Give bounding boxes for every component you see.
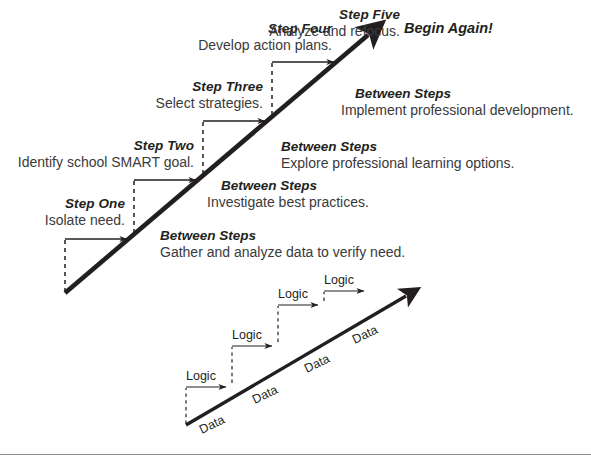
step-four-desc: Develop action plans. <box>100 37 332 53</box>
mini-logic-label-1: Logic <box>186 369 216 383</box>
between-steps-4-desc: Implement professional development. <box>341 102 574 118</box>
mini-diagonal-arrow <box>186 296 406 425</box>
step-two-desc: Identify school SMART goal. <box>0 154 194 170</box>
step-label-five: Step Five Analyze and refocus. <box>160 7 400 39</box>
between-steps-label-2: Between Steps Investigate best practices… <box>207 178 369 210</box>
between-steps-label-3: Between Steps Explore professional learn… <box>281 139 514 171</box>
step-three-desc: Select strategies. <box>40 95 263 111</box>
mini-logic-label-4: Logic <box>324 273 354 287</box>
between-steps-1-title: Between Steps <box>160 228 405 244</box>
step-label-one: Step One Isolate need. <box>0 196 125 228</box>
step-one-title: Step One <box>0 196 125 212</box>
step-label-three: Step Three Select strategies. <box>40 79 263 111</box>
step-three-title: Step Three <box>40 79 263 95</box>
step-two-title: Step Two <box>0 138 194 154</box>
step-one-desc: Isolate need. <box>0 212 125 228</box>
mini-step-connector-4 <box>324 291 364 301</box>
step-five-title: Step Five <box>160 7 400 23</box>
between-steps-label-4: Between Steps Implement professional dev… <box>341 86 574 118</box>
step-five-desc: Analyze and refocus. <box>160 23 400 39</box>
between-steps-1-desc: Gather and analyze data to verify need. <box>160 244 405 260</box>
begin-again-label: Begin Again! <box>404 20 493 37</box>
between-steps-2-title: Between Steps <box>221 178 369 194</box>
between-steps-3-desc: Explore professional learning options. <box>281 155 514 171</box>
between-steps-4-title: Between Steps <box>355 86 574 102</box>
between-steps-2-desc: Investigate best practices. <box>207 194 369 210</box>
footer-divider <box>0 454 591 455</box>
between-steps-3-title: Between Steps <box>281 139 514 155</box>
diagram-page: Step One Isolate need. Step Two Identify… <box>0 0 591 461</box>
mini-step-connector-3 <box>278 305 318 342</box>
mini-logic-label-3: Logic <box>278 287 308 301</box>
between-steps-label-1: Between Steps Gather and analyze data to… <box>160 228 405 260</box>
step-label-two: Step Two Identify school SMART goal. <box>0 138 194 170</box>
mini-logic-label-2: Logic <box>232 328 262 342</box>
